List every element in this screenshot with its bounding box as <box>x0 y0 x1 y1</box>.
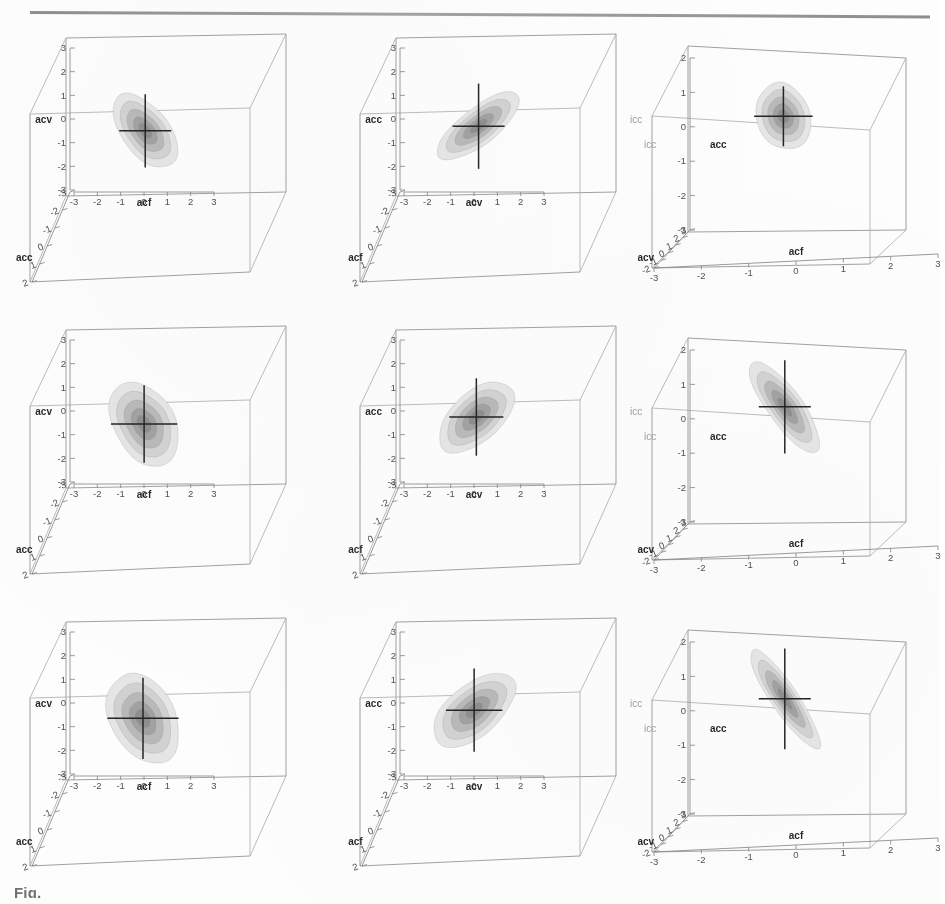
svg-text:0: 0 <box>61 405 66 416</box>
svg-text:-2: -2 <box>58 161 66 172</box>
svg-text:-2: -2 <box>388 453 396 464</box>
svg-text:acc: acc <box>365 114 382 125</box>
svg-text:0: 0 <box>657 247 666 259</box>
svg-text:-1: -1 <box>41 515 53 528</box>
svg-text:acc: acc <box>710 139 727 150</box>
svg-text:-2: -2 <box>93 488 101 499</box>
svg-text:1: 1 <box>681 671 686 682</box>
svg-text:acv: acv <box>466 197 483 208</box>
svg-text:-3: -3 <box>400 780 408 791</box>
svg-text:-3: -3 <box>70 196 78 207</box>
svg-text:2: 2 <box>21 861 30 873</box>
svg-text:1: 1 <box>391 90 396 101</box>
svg-text:3: 3 <box>391 334 396 345</box>
svg-text:-2: -2 <box>388 161 396 172</box>
svg-text:-1: -1 <box>371 807 383 820</box>
svg-text:1: 1 <box>61 382 66 393</box>
svg-text:-2: -2 <box>697 562 705 573</box>
svg-text:-1: -1 <box>678 447 686 458</box>
svg-text:-2: -2 <box>378 789 390 802</box>
svg-text:-2: -2 <box>93 196 101 207</box>
svg-text:3: 3 <box>541 196 546 207</box>
svg-text:2: 2 <box>188 196 193 207</box>
contour-panel-r2c2: 3210-1-2-3accicc-3-2-10123acv-3-2-1012ac… <box>344 312 656 608</box>
svg-text:-1: -1 <box>744 267 752 278</box>
svg-text:acv: acv <box>638 544 655 555</box>
svg-text:-2: -2 <box>378 497 390 510</box>
svg-text:2: 2 <box>391 66 396 77</box>
svg-text:acv: acv <box>35 698 52 709</box>
contour-panel-r3c2: 3210-1-2-3accicc-3-2-10123acv-3-2-1012ac… <box>344 604 656 900</box>
svg-text:-1: -1 <box>744 851 752 862</box>
svg-text:1: 1 <box>841 555 846 566</box>
svg-text:acf: acf <box>348 544 363 555</box>
svg-text:-1: -1 <box>58 721 66 732</box>
svg-text:3: 3 <box>391 42 396 53</box>
svg-text:3: 3 <box>391 626 396 637</box>
svg-text:2: 2 <box>518 196 523 207</box>
svg-text:-1: -1 <box>371 515 383 528</box>
svg-text:-1: -1 <box>446 780 454 791</box>
svg-text:-2: -2 <box>697 854 705 865</box>
svg-text:-1: -1 <box>388 137 396 148</box>
svg-text:3: 3 <box>211 488 216 499</box>
svg-text:2: 2 <box>681 344 686 355</box>
svg-text:1: 1 <box>165 196 170 207</box>
svg-text:-1: -1 <box>58 137 66 148</box>
svg-text:-3: -3 <box>650 856 658 867</box>
svg-text:0: 0 <box>681 705 686 716</box>
svg-text:0: 0 <box>657 831 666 843</box>
svg-text:1: 1 <box>165 488 170 499</box>
svg-text:2: 2 <box>351 569 360 581</box>
svg-text:1: 1 <box>495 780 500 791</box>
svg-text:1: 1 <box>495 196 500 207</box>
svg-text:1: 1 <box>61 90 66 101</box>
svg-text:acc: acc <box>16 544 33 555</box>
svg-text:1: 1 <box>681 87 686 98</box>
svg-text:1: 1 <box>681 379 686 390</box>
svg-text:acf: acf <box>789 830 804 841</box>
svg-text:0: 0 <box>36 825 45 837</box>
svg-text:2: 2 <box>518 780 523 791</box>
svg-text:0: 0 <box>391 405 396 416</box>
svg-text:acc: acc <box>710 431 727 442</box>
svg-text:0: 0 <box>61 113 66 124</box>
svg-text:0: 0 <box>681 413 686 424</box>
svg-text:-1: -1 <box>371 223 383 236</box>
svg-text:2: 2 <box>888 260 893 271</box>
svg-text:2: 2 <box>391 358 396 369</box>
contour-panel-r3c3: 210-1-2-3accicc-3-2-10123acf3210-1-2acv <box>638 602 945 898</box>
svg-text:0: 0 <box>681 121 686 132</box>
svg-text:0: 0 <box>793 557 798 568</box>
svg-text:1: 1 <box>495 488 500 499</box>
svg-text:-2: -2 <box>48 497 60 510</box>
svg-text:0: 0 <box>391 113 396 124</box>
svg-text:1: 1 <box>165 780 170 791</box>
svg-text:-2: -2 <box>58 745 66 756</box>
contour-panel-r2c3: 210-1-2-3accicc-3-2-10123acf3210-1-2acv <box>638 310 945 606</box>
svg-text:-1: -1 <box>678 155 686 166</box>
svg-text:acv: acv <box>638 252 655 263</box>
svg-text:2: 2 <box>61 66 66 77</box>
svg-text:2: 2 <box>61 358 66 369</box>
figure-caption-fragment: Fig. <box>14 884 41 898</box>
svg-text:2: 2 <box>188 780 193 791</box>
svg-text:-3: -3 <box>70 488 78 499</box>
svg-text:-1: -1 <box>116 488 124 499</box>
svg-text:0: 0 <box>391 697 396 708</box>
svg-text:3: 3 <box>935 842 940 853</box>
svg-text:icc: icc <box>644 723 656 734</box>
svg-text:-2: -2 <box>678 190 686 201</box>
svg-text:acc: acc <box>16 836 33 847</box>
svg-text:-2: -2 <box>423 196 431 207</box>
svg-text:0: 0 <box>657 539 666 551</box>
svg-text:3: 3 <box>61 626 66 637</box>
svg-text:0: 0 <box>366 533 375 545</box>
svg-text:2: 2 <box>518 488 523 499</box>
svg-text:-1: -1 <box>41 223 53 236</box>
svg-text:3: 3 <box>211 780 216 791</box>
svg-text:3: 3 <box>211 196 216 207</box>
svg-text:3: 3 <box>541 488 546 499</box>
svg-text:acf: acf <box>137 197 152 208</box>
